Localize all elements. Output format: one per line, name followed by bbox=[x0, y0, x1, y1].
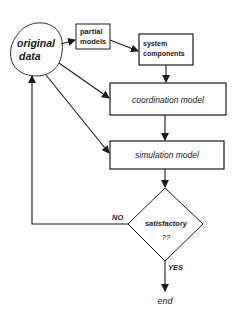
edge-label-no: NO bbox=[112, 213, 123, 222]
decision-label-2: ?? bbox=[162, 233, 171, 242]
decision-label-1: satisfactory bbox=[145, 219, 188, 228]
partial-models-label-1: partial bbox=[80, 27, 103, 36]
original-data-label-2: data bbox=[19, 50, 41, 62]
edge-label-yes: YES bbox=[168, 263, 183, 272]
system-components-label-1: system bbox=[143, 40, 167, 48]
flowchart-diagram: original data partial models system comp… bbox=[0, 0, 236, 322]
simulation-model-label: simulation model bbox=[135, 150, 200, 160]
edge-partial-to-system bbox=[110, 40, 138, 51]
partial-models-label-2: models bbox=[80, 37, 106, 46]
edge-original-to-coordination bbox=[59, 63, 109, 98]
system-components-label-2: components bbox=[143, 50, 185, 58]
edge-original-to-partial bbox=[61, 40, 75, 44]
coordination-model-label: coordination model bbox=[132, 95, 205, 105]
end-label: end bbox=[157, 296, 173, 306]
original-data-label-1: original bbox=[17, 37, 56, 49]
edge-original-to-simulation bbox=[46, 75, 109, 153]
